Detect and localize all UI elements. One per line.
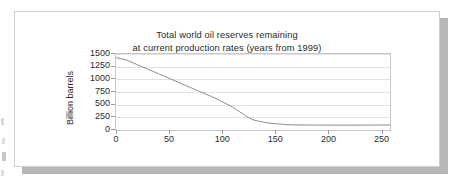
screenshot-root: Total world oil reserves remaining at cu… — [0, 0, 457, 187]
x-tick-label: 200 — [308, 134, 348, 144]
x-tick-label: 150 — [255, 134, 295, 144]
x-tick-label: 100 — [202, 134, 242, 144]
chart-svg — [116, 54, 390, 130]
chart-title-line-1: Total world oil reserves remaining — [15, 29, 439, 42]
y-tick-label: 1000 — [77, 74, 110, 83]
y-tick-label: 0 — [77, 125, 110, 134]
edge-mark — [1, 170, 4, 176]
edge-mark — [2, 138, 5, 144]
y-axis-title-label: Billion barrels — [65, 71, 75, 125]
edge-mark — [2, 152, 6, 161]
y-axis-title: Billion barrels — [63, 56, 77, 140]
edge-mark — [1, 118, 4, 125]
x-axis-tick-labels: 050100150200250 — [115, 134, 391, 146]
x-tick-label: 250 — [362, 134, 402, 144]
y-axis-tick-labels: 1500125010007505002500 — [77, 53, 110, 129]
y-tick-label: 250 — [77, 112, 110, 121]
chart-card: Total world oil reserves remaining at cu… — [14, 11, 440, 167]
y-tick-label: 1250 — [77, 61, 110, 70]
x-tick-label: 50 — [149, 134, 189, 144]
y-tick-label: 1500 — [77, 49, 110, 58]
page-edge-artifacts — [0, 116, 8, 178]
y-tick-label: 500 — [77, 99, 110, 108]
data-series-line — [116, 58, 390, 126]
x-tick-label: 0 — [96, 134, 136, 144]
plot-area — [115, 53, 391, 131]
y-tick-label: 750 — [77, 87, 110, 96]
